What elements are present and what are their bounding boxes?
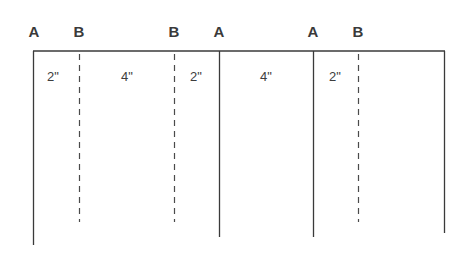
diagram-lines-svg <box>0 0 467 258</box>
column-header-b-2: B <box>169 24 180 39</box>
segment-measure-2: 4" <box>121 70 133 83</box>
segment-measure-1: 2" <box>47 70 59 83</box>
column-header-a-2: A <box>214 24 225 39</box>
segment-measure-5: 2" <box>329 70 341 83</box>
diagram-canvas: A B B A A B 2" 4" 2" 4" 2" <box>0 0 467 258</box>
column-header-b-3: B <box>353 24 364 39</box>
column-header-b-1: B <box>74 24 85 39</box>
column-header-a-1: A <box>29 24 40 39</box>
segment-measure-3: 2" <box>190 70 202 83</box>
segment-measure-4: 4" <box>260 70 272 83</box>
column-header-a-3: A <box>308 24 319 39</box>
